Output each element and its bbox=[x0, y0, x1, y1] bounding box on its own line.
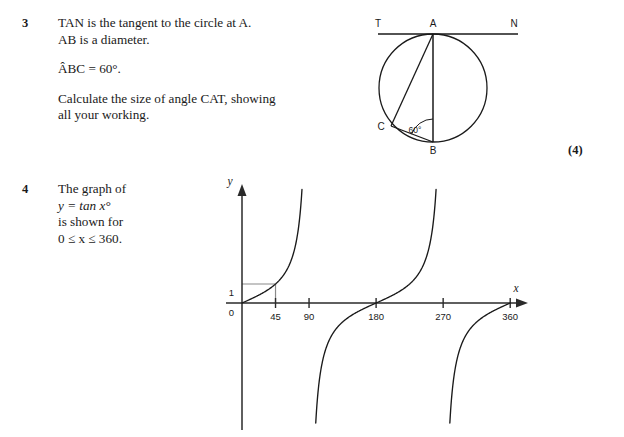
question-4: 4 The graph of y = tan x° is shown for 0… bbox=[0, 172, 624, 437]
point-label-n: N bbox=[510, 18, 517, 29]
x-tick-label-270: 270 bbox=[435, 311, 451, 322]
x-tick-label-90: 90 bbox=[304, 311, 315, 322]
y-tick-label-1: 1 bbox=[229, 287, 234, 298]
tan-branch-0 bbox=[242, 189, 302, 303]
question-4-line-1: The graph of bbox=[58, 181, 218, 198]
question-4-line-4: 0 ≤ x ≤ 360. bbox=[58, 231, 218, 248]
question-4-number: 4 bbox=[22, 182, 28, 197]
question-3-line-5: all your working. bbox=[58, 107, 358, 124]
tan-branch-2 bbox=[450, 303, 510, 423]
question-3-line-1: TAN is the tangent to the circle at A. bbox=[58, 15, 358, 32]
question-3-number: 3 bbox=[22, 16, 28, 31]
question-3-line-4: Calculate the size of angle CAT, showing bbox=[58, 91, 358, 108]
question-3-line-2: AB is a diameter. bbox=[58, 32, 358, 49]
question-4-text: The graph of y = tan x° is shown for 0 ≤… bbox=[58, 181, 218, 247]
y-axis-label: y bbox=[226, 175, 233, 188]
y-tick-label-0: 0 bbox=[229, 307, 234, 318]
point-label-c: C bbox=[377, 121, 384, 132]
point-label-t: T bbox=[375, 18, 381, 29]
question-3-marks: (4) bbox=[568, 143, 583, 158]
point-label-b: B bbox=[430, 145, 437, 156]
circle-theorem-figure: T A N C B 60° bbox=[370, 8, 550, 156]
question-3: 3 TAN is the tangent to the circle at A.… bbox=[0, 0, 624, 170]
x-tick-label-360: 360 bbox=[502, 311, 518, 322]
question-4-line-3: is shown for bbox=[58, 214, 218, 231]
question-3-text: TAN is the tangent to the circle at A. A… bbox=[58, 15, 358, 124]
point-label-a: A bbox=[430, 18, 437, 29]
question-4-line-2: y = tan x° bbox=[58, 198, 218, 215]
x-axis-tick-labels-group: 4590180270360 bbox=[270, 311, 518, 322]
y-axis-arrowhead bbox=[238, 184, 247, 196]
x-tick-label-45: 45 bbox=[270, 311, 281, 322]
x-axis-arrowhead bbox=[516, 299, 528, 308]
question-3-line-3: ÂBC = 60°. bbox=[58, 61, 358, 78]
angle-value-label: 60° bbox=[409, 125, 422, 135]
tan-graph-figure: 4590180270360 1 0 y x bbox=[216, 172, 536, 437]
x-axis-label: x bbox=[512, 282, 519, 294]
x-tick-label-180: 180 bbox=[368, 311, 384, 322]
